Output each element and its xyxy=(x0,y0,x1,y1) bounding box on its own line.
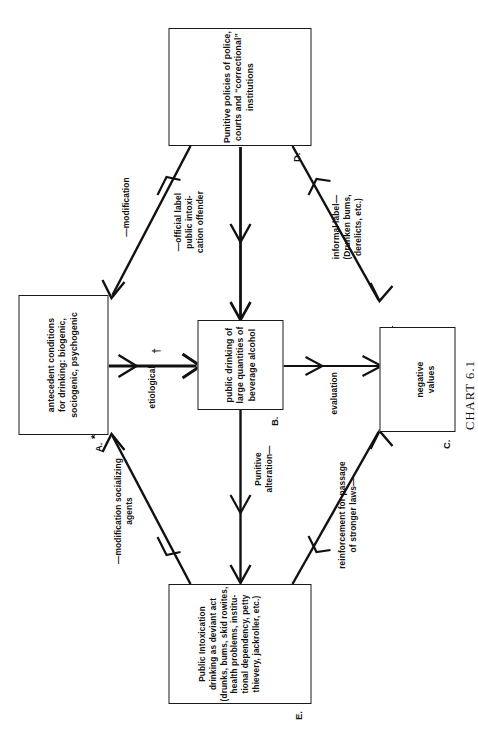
node-box-d[interactable]: Punitive policies of police, courts and … xyxy=(168,28,311,146)
edge-label-modification: —modification xyxy=(120,152,131,262)
node-a-letter: A. xyxy=(92,443,103,453)
node-b-text: public drinking of large quantities of b… xyxy=(223,321,257,409)
node-c-letter: C. xyxy=(440,440,451,450)
edge-label-informal: informal label— (Drunken bums, derelicts… xyxy=(330,162,363,292)
edge-label-etiological-marker: † xyxy=(150,344,161,358)
node-c-text: negative values xyxy=(414,328,437,431)
edge-d-to-e xyxy=(230,147,250,320)
node-box-e[interactable]: Public Intoxication drinking as deviant … xyxy=(168,584,311,704)
chart-caption: CHART 6.1 xyxy=(463,360,478,430)
edge-label-punitive-alteration: Punitive alteration— xyxy=(252,414,274,524)
edge-label-reinforcement-laws: reinforcement for passage of stronger la… xyxy=(336,440,358,590)
node-d-letter: D. xyxy=(290,153,301,163)
node-box-a[interactable]: antecedent conditions for drinking: biog… xyxy=(18,295,108,435)
node-box-c[interactable]: negative values xyxy=(379,327,455,432)
node-d-text: Punitive policies of police, courts and … xyxy=(221,29,255,145)
node-e-letter: E. xyxy=(292,711,303,720)
edge-label-modification-socializing: —modification socializing agents xyxy=(112,426,134,596)
edge-label-evaluation: evaluation xyxy=(328,372,339,432)
node-e-text: Public Intoxication drinking as deviant … xyxy=(197,585,262,703)
node-a-text: antecedent conditions for drinking: biog… xyxy=(45,296,79,434)
node-box-b[interactable]: public drinking of large quantities of b… xyxy=(197,320,283,410)
edge-label-official: —official label public intoxi- cation of… xyxy=(172,162,205,282)
edge-b-to-e xyxy=(230,410,250,583)
node-a-letter-asterisk: * xyxy=(88,435,100,439)
edge-label-etiological: etiological xyxy=(146,366,157,426)
